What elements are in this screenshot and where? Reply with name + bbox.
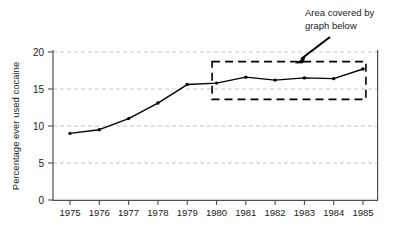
data-point-1977 (127, 117, 130, 120)
xtick-label-1977: 1977 (118, 207, 139, 218)
y-axis-title: Percentage ever used cocaine (10, 62, 21, 190)
xtick-label-1976: 1976 (89, 207, 110, 218)
xtick-label-1984: 1984 (323, 207, 344, 218)
ytick-label-0: 0 (38, 195, 44, 206)
data-point-1981 (244, 75, 247, 78)
data-point-1979 (186, 83, 189, 86)
callout-arrow-icon (295, 37, 330, 64)
y-tick-labels: 20 15 10 5 0 (33, 47, 45, 206)
ytick-label-15: 15 (33, 84, 45, 95)
xtick-label-1979: 1979 (177, 207, 198, 218)
data-point-1980 (215, 81, 218, 84)
callout-line-2: graph below (305, 20, 357, 31)
xtick-label-1980: 1980 (206, 207, 227, 218)
data-line-series (70, 69, 363, 133)
data-point-1984 (332, 77, 335, 80)
xtick-label-1982: 1982 (265, 207, 286, 218)
y-gridlines (53, 52, 378, 163)
callout-line-1: Area covered by (305, 7, 374, 18)
data-point-1985 (361, 67, 364, 70)
data-point-1983 (303, 76, 306, 79)
data-point-1978 (156, 101, 159, 104)
line-chart: 20 15 10 5 0 Percentage ever used cocain… (0, 0, 396, 236)
ytick-label-10: 10 (33, 121, 45, 132)
xtick-label-1975: 1975 (59, 207, 80, 218)
arrow-shaft (301, 37, 330, 59)
axes-lines (53, 50, 378, 201)
callout-text: Area covered by graph below (305, 7, 374, 31)
xtick-label-1983: 1983 (294, 207, 315, 218)
data-point-1976 (98, 128, 101, 131)
chart-figure: 20 15 10 5 0 Percentage ever used cocain… (0, 0, 396, 236)
data-point-1982 (273, 78, 276, 81)
area-covered-box (212, 62, 366, 100)
xtick-label-1981: 1981 (235, 207, 256, 218)
ytick-label-20: 20 (33, 47, 45, 58)
data-point-1975 (68, 132, 71, 135)
xtick-label-1985: 1985 (352, 207, 373, 218)
ytick-label-5: 5 (38, 158, 44, 169)
arrow-head (295, 57, 306, 64)
y-tick-marks (48, 52, 53, 200)
x-tick-labels: 1975 1976 1977 1978 1979 1980 1981 1982 … (59, 207, 373, 218)
xtick-label-1978: 1978 (147, 207, 168, 218)
